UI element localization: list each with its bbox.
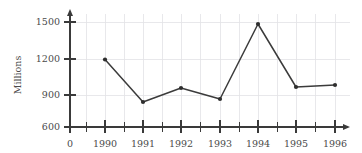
x-axis-arrow-icon xyxy=(343,124,350,130)
chart-canvas: 1500 1200 900 600 0 1990 1991 1992 1993 … xyxy=(0,0,362,153)
line-chart: 1500 1200 900 600 0 1990 1991 1992 1993 … xyxy=(0,0,362,153)
x-tick-label-origin: 0 xyxy=(67,138,73,149)
y-axis-title: Millions xyxy=(12,56,23,95)
x-tick-label-1991: 1991 xyxy=(131,138,155,149)
y-axis-tick-labels: 1500 1200 900 600 xyxy=(36,16,60,132)
data-point-1993 xyxy=(218,97,222,101)
x-tick-label-1994: 1994 xyxy=(246,138,270,149)
x-tick-label-1996: 1996 xyxy=(323,138,347,149)
data-point-1991 xyxy=(141,100,145,104)
x-axis xyxy=(70,124,350,130)
data-point-1992 xyxy=(179,86,183,90)
x-axis-tick-labels: 0 1990 1991 1992 1993 1994 1995 1996 xyxy=(67,138,347,149)
x-tick-label-1990: 1990 xyxy=(93,138,117,149)
x-tick-label-1993: 1993 xyxy=(208,138,232,149)
data-point-1995 xyxy=(294,85,298,89)
horizontal-gridlines xyxy=(70,22,350,95)
y-tick-label-900: 900 xyxy=(42,89,60,100)
vertical-gridlines xyxy=(86,14,335,127)
y-tick-label-600: 600 xyxy=(42,121,60,132)
y-axis xyxy=(67,9,73,128)
x-tick-label-1992: 1992 xyxy=(169,138,193,149)
y-tick-label-1500: 1500 xyxy=(36,16,60,27)
y-axis-arrow-icon xyxy=(67,9,73,16)
data-point-1990 xyxy=(103,57,107,61)
x-tick-label-1995: 1995 xyxy=(284,138,308,149)
data-point-1996 xyxy=(333,83,337,87)
data-point-1994 xyxy=(256,22,260,26)
y-tick-label-1200: 1200 xyxy=(36,53,60,64)
